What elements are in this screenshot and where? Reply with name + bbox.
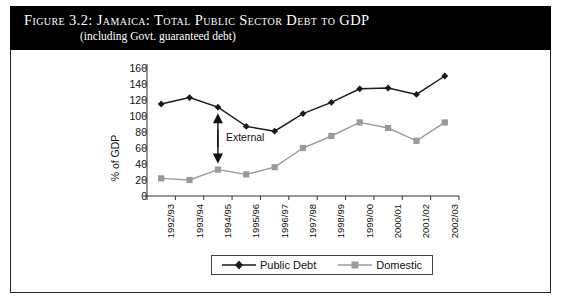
legend-item-public-debt: Public Debt — [222, 259, 316, 271]
figure-title: Figure 3.2: Jamaica: Total Public Sector… — [24, 11, 551, 29]
figure-subtitle: (including Govt. guaranteed debt) — [24, 30, 551, 44]
plot-area: % of GDP 020406080100120140160 1992/9319… — [11, 50, 552, 293]
figure-3-2: Figure 3.2: Jamaica: Total Public Sector… — [0, 0, 561, 303]
legend-marker-square-icon — [338, 259, 372, 271]
legend-item-domestic: Domestic — [338, 259, 422, 271]
series-public-debt — [158, 73, 448, 135]
chart-legend: Public Debt Domestic — [211, 255, 433, 275]
series-domestic — [158, 119, 448, 183]
data-series-layer — [158, 73, 448, 184]
legend-marker-diamond-icon — [222, 259, 256, 271]
external-annotation-label: External — [226, 131, 265, 143]
legend-label-public-debt: Public Debt — [260, 259, 316, 271]
title-banner: Figure 3.2: Jamaica: Total Public Sector… — [10, 6, 551, 50]
chart-frame: % of GDP 020406080100120140160 1992/9319… — [10, 50, 551, 293]
legend-label-domestic: Domestic — [376, 259, 422, 271]
annotation-layer — [213, 113, 223, 163]
